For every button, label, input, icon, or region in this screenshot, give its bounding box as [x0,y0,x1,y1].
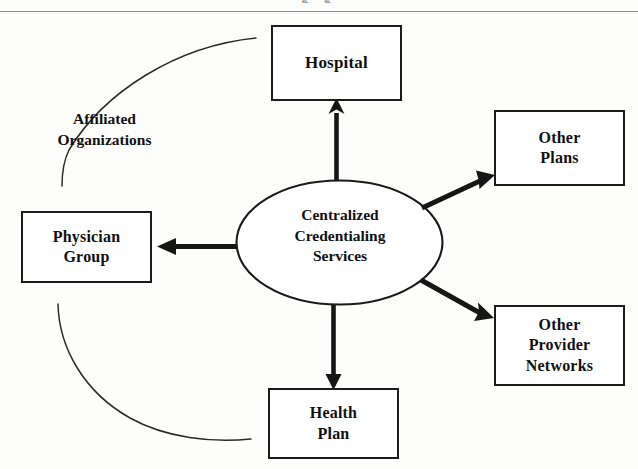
connector-hub-to-health-plan [326,305,342,390]
affiliated-label-line-2: Organizations [22,129,187,150]
node-health-plan[interactable]: Health Plan [268,388,399,459]
node-other-plans-line-2: Plans [540,148,578,168]
node-hospital-line-1: Hospital [305,52,368,73]
affiliated-label-line-1: Affiliated [22,108,187,129]
affiliated-arc-lower [58,304,251,440]
node-hospital[interactable]: Hospital [271,25,402,101]
node-health-plan-line-1: Health [310,403,357,423]
node-other-provider-networks[interactable]: Other Provider Networks [494,305,625,386]
node-other-plans[interactable]: Other Plans [494,110,625,186]
node-physician-group-line-1: Physician [53,227,121,247]
node-other-provider-networks-line-3: Networks [526,356,593,376]
connector-hub-to-physician-group [157,238,236,255]
connector-hub-to-other-provider-networks [421,280,494,321]
node-other-provider-networks-line-1: Other [539,315,581,335]
node-other-plans-line-1: Other [539,128,581,148]
hub-ellipse [237,181,443,305]
node-health-plan-line-2: Plan [318,424,350,444]
node-physician-group[interactable]: Physician Group [21,211,152,283]
affiliated-organizations-label: Affiliated Organizations [22,108,187,151]
node-other-provider-networks-line-2: Provider [529,335,591,355]
connector-hub-to-hospital [329,98,345,180]
diagram-canvas: g g [0,0,638,469]
connector-hub-to-other-plans [422,171,495,209]
node-physician-group-line-2: Group [63,247,109,267]
